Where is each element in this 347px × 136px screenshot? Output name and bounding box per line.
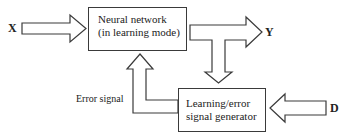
input-d-arrow-icon	[270, 94, 326, 122]
learning-generator-box: Learning/error signal generator	[178, 88, 266, 132]
error-feedback-arrow-icon	[127, 54, 178, 113]
neural-learning-diagram: Neural network (in learning mode) Learni…	[0, 0, 347, 136]
error-signal-label: Error signal	[76, 93, 124, 104]
desired-d-label: D	[330, 101, 339, 116]
learning-generator-title: Learning/error	[186, 97, 265, 110]
neural-network-title: Neural network	[98, 13, 186, 26]
neural-network-mode: (in learning mode)	[98, 26, 186, 39]
neural-network-box: Neural network (in learning mode)	[88, 7, 187, 51]
output-y-split-arrow-icon	[190, 17, 262, 83]
input-x-arrow-icon	[22, 15, 86, 42]
output-y-label: Y	[265, 25, 274, 40]
input-x-label: X	[8, 21, 17, 36]
learning-generator-subtitle: signal generator	[186, 110, 265, 123]
